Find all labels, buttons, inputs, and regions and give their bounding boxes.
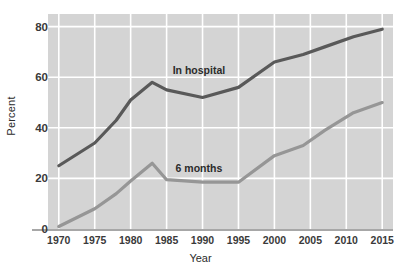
y-axis-tick-labels: 020406080 [0,0,48,272]
x-tick-label: 2010 [335,234,358,246]
y-tick-label: 40 [18,122,48,134]
y-tick-label: 0 [18,223,48,235]
x-tick-label: 2015 [371,234,394,246]
series-label: In hospital [173,64,226,76]
series-label: 6 months [176,162,223,174]
x-tick-label: 1995 [227,234,250,246]
x-tick-label: 1970 [47,234,70,246]
line-chart-figure: Percent 020406080 1970197519801985199019… [0,0,401,272]
x-tick-label: 2000 [263,234,286,246]
plot-area-svg [0,0,401,272]
x-tick-label: 1985 [155,234,178,246]
x-tick-label: 2005 [299,234,322,246]
x-tick-label: 1990 [191,234,214,246]
y-tick-label: 60 [18,71,48,83]
y-tick-label: 80 [18,21,48,33]
x-axis-title: Year [0,252,401,264]
x-tick-label: 1975 [83,234,106,246]
y-tick-label: 20 [18,172,48,184]
x-tick-label: 1980 [119,234,142,246]
